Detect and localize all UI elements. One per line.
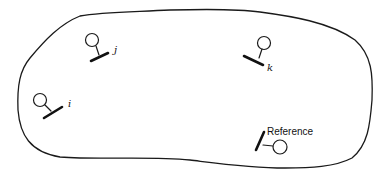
reference-stem	[263, 145, 273, 146]
reference-label: Reference	[267, 126, 314, 137]
region-boundary	[18, 9, 372, 168]
station-i-head-icon	[34, 94, 47, 107]
station-i: i	[34, 94, 72, 119]
station-k-label: k	[267, 62, 273, 73]
station-j: j	[86, 34, 118, 62]
station-j-label: j	[112, 44, 117, 55]
station-j-base-bar	[91, 53, 108, 61]
diagram-canvas: j k i Reference	[0, 0, 386, 177]
station-k-head-icon	[258, 37, 271, 50]
reference-head-icon	[273, 140, 287, 154]
station-k-stem	[259, 49, 262, 58]
station-k-base-bar	[244, 56, 263, 65]
station-i-stem	[45, 105, 51, 111]
reference-base-bar	[256, 132, 264, 150]
station-i-label: i	[68, 98, 71, 109]
station-i-base-bar	[44, 107, 62, 118]
station-k: k	[244, 37, 273, 74]
station-j-stem	[96, 46, 99, 55]
station-reference: Reference	[256, 126, 314, 154]
station-j-head-icon	[86, 34, 99, 47]
